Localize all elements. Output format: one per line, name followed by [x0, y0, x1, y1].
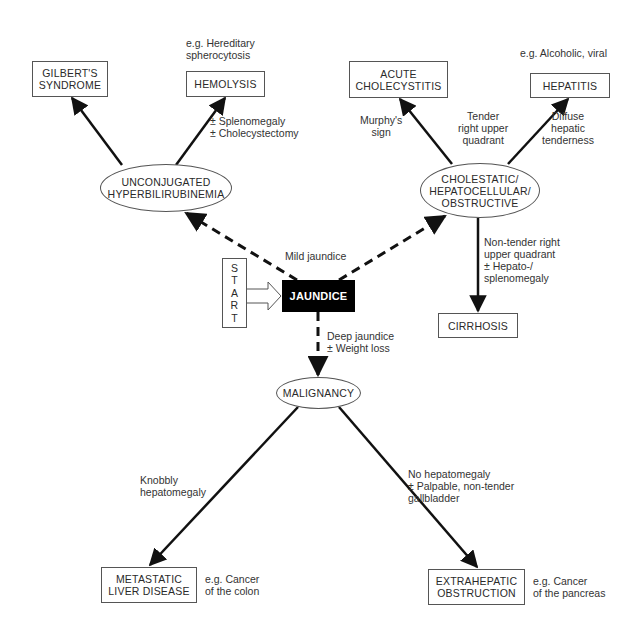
non-tender-ruq-label: Non-tender right upper quadrant ± Hepato… [484, 236, 560, 284]
extrahepatic-example-label: e.g. Cancer of the pancreas [533, 575, 605, 599]
edge-cholestatic-to-cholecystitis [400, 99, 452, 164]
extrahepatic-label: EXTRAHEPATIC OBSTRUCTION [436, 575, 517, 599]
tender-ruq-label: Tender right upper quadrant [458, 110, 508, 146]
gilbert-label: GILBERT'S SYNDROME [39, 67, 101, 91]
hemolysis-node[interactable]: HEMOLYSIS [186, 71, 265, 97]
start-letter: R [231, 299, 239, 312]
extrahepatic-obstruction-node[interactable]: EXTRAHEPATIC OBSTRUCTION [428, 569, 525, 605]
start-letter: T [231, 274, 238, 287]
hemolysis-example-label: e.g. Hereditary spherocytosis [186, 37, 255, 61]
unconjugated-hyperbilirubinemia-node[interactable]: UNCONJUGATED HYPERBILIRUBINEMIA [100, 164, 232, 212]
malignancy-node[interactable]: MALIGNANCY [276, 377, 361, 409]
gilberts-syndrome-node[interactable]: GILBERT'S SYNDROME [32, 61, 108, 97]
hepatitis-node[interactable]: HEPATITIS [530, 73, 610, 98]
cirrhosis-label: CIRRHOSIS [448, 320, 508, 332]
murphys-sign-label: Murphy's sign [360, 114, 402, 138]
knobbly-hepatomegaly-label: Knobbly hepatomegaly [140, 474, 206, 498]
start-letter: T [231, 312, 238, 325]
edge-jaundice-to-cholestatic [339, 216, 445, 280]
hepatitis-label: HEPATITIS [543, 80, 598, 92]
malignancy-label: MALIGNANCY [283, 387, 354, 399]
metastatic-example-label: e.g. Cancer of the colon [205, 573, 259, 597]
metastatic-label: METASTATIC LIVER DISEASE [108, 573, 189, 597]
no-hepatomegaly-label: No hepatomegaly ± Palpable, non-tender g… [408, 468, 514, 504]
diffuse-hepatic-tenderness-label: Diffuse hepatic tenderness [542, 110, 594, 146]
acute-cholecystitis-node[interactable]: ACUTE CHOLECYSTITIS [349, 61, 448, 98]
start-letter: A [231, 287, 238, 300]
hemolysis-label: HEMOLYSIS [194, 78, 256, 90]
edge-unconjugated-to-gilbert [72, 98, 122, 165]
jaundice-node[interactable]: JAUNDICE [282, 280, 355, 312]
mild-jaundice-label: Mild jaundice [285, 250, 346, 262]
unconjugated-label: UNCONJUGATED HYPERBILIRUBINEMIA [108, 176, 225, 200]
jaundice-label: JAUNDICE [290, 290, 348, 302]
metastatic-liver-disease-node[interactable]: METASTATIC LIVER DISEASE [101, 567, 197, 603]
cirrhosis-node[interactable]: CIRRHOSIS [438, 313, 518, 338]
acute-cholecystitis-label: ACUTE CHOLECYSTITIS [355, 68, 441, 92]
hepatitis-example-label: e.g. Alcoholic, viral [520, 47, 607, 59]
jaundice-flowchart: S T A R T JAUNDICE UNCONJUGATED HYPERBIL… [0, 0, 642, 633]
cholestatic-hepatocellular-obstructive-node[interactable]: CHOLESTATIC/ HEPATOCELLULAR/ OBSTRUCTIVE [420, 163, 540, 218]
hollow-arrow-start-to-jaundice [246, 282, 281, 310]
start-node[interactable]: S T A R T [222, 258, 247, 328]
deep-jaundice-label: Deep jaundice ± Weight loss [327, 330, 394, 354]
start-letter: S [231, 262, 238, 275]
cholestatic-label: CHOLESTATIC/ HEPATOCELLULAR/ OBSTRUCTIVE [429, 173, 531, 209]
hemolysis-edge-label: ± Splenomegaly ± Cholecystectomy [210, 115, 299, 139]
